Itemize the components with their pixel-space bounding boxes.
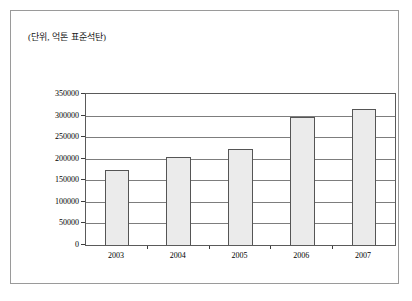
x-axis-tick-label: 2003 — [108, 251, 124, 260]
x-axis-tick-marks — [85, 246, 396, 250]
y-axis-tick-label: 250000 — [55, 132, 79, 141]
x-axis-tick-mark — [209, 246, 210, 249]
bar[interactable] — [166, 157, 191, 245]
x-axis-tick-label: 2007 — [355, 251, 371, 260]
x-axis-tick-mark — [332, 246, 333, 249]
x-axis-tick-label: 2004 — [170, 251, 186, 260]
y-axis-tick-label: 200000 — [55, 153, 79, 162]
x-axis-tick-labels: 20032004200520062007 — [85, 251, 396, 265]
y-axis-tick-label: 50000 — [59, 218, 79, 227]
bar-slot — [333, 94, 395, 245]
x-axis-tick-mark — [147, 246, 148, 249]
y-axis-tick-labels: 0500001000001500002000002500003000003500… — [35, 93, 79, 246]
x-axis-tick-label: 2006 — [293, 251, 309, 260]
bar[interactable] — [105, 170, 130, 246]
bar[interactable] — [290, 117, 315, 245]
figure-frame: (단위, 억톤 표준석탄) 05000010000015000020000025… — [10, 10, 399, 284]
x-axis-tick-mark — [270, 246, 271, 249]
y-axis-tick-label: 150000 — [55, 175, 79, 184]
chart-unit-caption: (단위, 억톤 표준석탄) — [28, 30, 106, 43]
y-axis-tick-label: 300000 — [55, 110, 79, 119]
y-axis-tick-label: 350000 — [55, 89, 79, 98]
bar[interactable] — [228, 149, 253, 245]
bar-slot — [271, 94, 333, 245]
y-axis-tick-label: 100000 — [55, 196, 79, 205]
bar-slot — [148, 94, 210, 245]
x-axis-tick-label: 2005 — [232, 251, 248, 260]
bar[interactable] — [352, 109, 377, 245]
bar-series — [86, 94, 395, 245]
y-axis-tick-label: 0 — [75, 240, 79, 249]
bar-slot — [210, 94, 272, 245]
bar-slot — [86, 94, 148, 245]
plot-area — [85, 93, 396, 246]
